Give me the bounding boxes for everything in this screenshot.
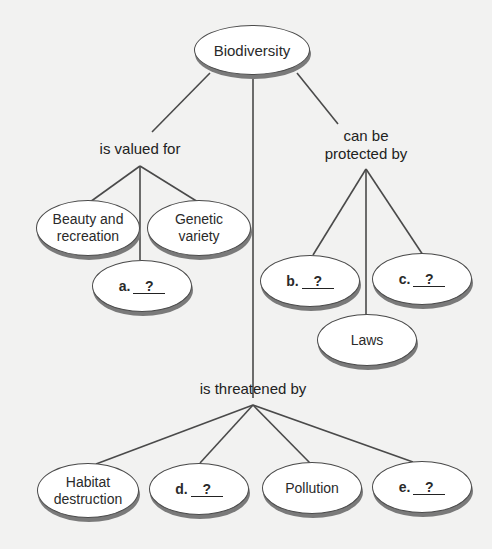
node-habitat-destruction: Habitat destruction xyxy=(37,463,139,518)
link-is-threatened-by: is threatened by xyxy=(183,380,323,398)
node-laws: Laws xyxy=(317,314,417,366)
node-genetic-variety: Genetic variety xyxy=(147,200,251,256)
link-can-be-protected-by: can be protected by xyxy=(306,127,426,163)
node-blank-b[interactable]: b. ? xyxy=(260,255,360,307)
node-beauty-and-recreation: Beauty and recreation xyxy=(36,200,140,256)
node-blank-e[interactable]: e. ? xyxy=(372,461,472,513)
link-is-valued-for: is valued for xyxy=(80,140,200,158)
node-biodiversity: Biodiversity xyxy=(194,25,310,75)
blank-e-answer[interactable]: ? xyxy=(413,480,445,495)
node-pollution: Pollution xyxy=(262,462,362,514)
node-biodiversity-label: Biodiversity xyxy=(214,42,291,59)
blank-c-answer[interactable]: ? xyxy=(413,272,445,287)
blank-b-answer[interactable]: ? xyxy=(302,274,334,289)
blank-a-answer[interactable]: ? xyxy=(133,279,165,294)
blank-d-answer[interactable]: ? xyxy=(191,482,223,497)
node-blank-a[interactable]: a. ? xyxy=(92,260,192,312)
blank-e-letter: e. xyxy=(399,479,411,496)
concept-map: Biodiversity is valued for can be protec… xyxy=(0,0,492,549)
blank-a-letter: a. xyxy=(119,278,131,295)
node-blank-d[interactable]: d. ? xyxy=(149,463,249,515)
node-blank-c[interactable]: c. ? xyxy=(372,253,472,305)
blank-d-letter: d. xyxy=(175,481,187,498)
blank-c-letter: c. xyxy=(399,271,411,288)
blank-b-letter: b. xyxy=(286,273,298,290)
